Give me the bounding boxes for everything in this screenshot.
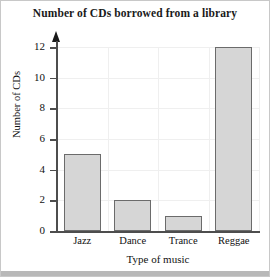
gridline-vertical bbox=[108, 47, 109, 231]
y-axis-tick-label: 10 bbox=[19, 71, 45, 83]
y-axis-tick bbox=[50, 170, 57, 172]
x-axis-label-trance: Trance bbox=[158, 235, 209, 246]
gridline-vertical bbox=[158, 47, 159, 231]
x-axis-line bbox=[56, 231, 260, 233]
plot-area bbox=[57, 47, 259, 231]
chart-figure: Number of CDs borrowed from a library Nu… bbox=[0, 0, 270, 277]
y-axis-tick-label: 2 bbox=[19, 193, 45, 205]
gridline-vertical bbox=[259, 47, 260, 231]
y-axis-tick bbox=[50, 78, 57, 80]
x-axis-title: Type of music bbox=[57, 253, 259, 265]
y-axis-tick-label: 12 bbox=[19, 40, 45, 52]
bar-reggae bbox=[215, 47, 252, 231]
bar-jazz bbox=[64, 154, 101, 231]
y-axis-tick-label: 8 bbox=[19, 101, 45, 113]
bar-trance bbox=[165, 216, 202, 231]
x-axis-label-reggae: Reggae bbox=[209, 235, 260, 246]
y-axis-tick bbox=[50, 139, 57, 141]
bottom-edge-band bbox=[1, 271, 269, 276]
y-axis-tick bbox=[50, 47, 57, 49]
y-axis-tick bbox=[50, 231, 57, 233]
y-axis-tick bbox=[50, 200, 57, 202]
chart-title: Number of CDs borrowed from a library bbox=[1, 7, 269, 19]
y-axis-tick-label: 0 bbox=[19, 224, 45, 236]
gridline-vertical bbox=[209, 47, 210, 231]
x-axis-label-dance: Dance bbox=[108, 235, 159, 246]
y-axis-tick-label: 6 bbox=[19, 132, 45, 144]
x-axis-label-jazz: Jazz bbox=[57, 235, 108, 246]
y-axis-line bbox=[56, 41, 58, 232]
bar-dance bbox=[114, 200, 151, 231]
y-axis-tick-label: 4 bbox=[19, 163, 45, 175]
y-axis-tick bbox=[50, 108, 57, 110]
